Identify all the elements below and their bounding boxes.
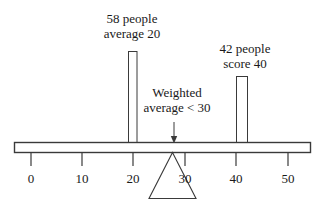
axis-tick-label-40: 40 — [219, 172, 253, 185]
axis-ticks — [31, 152, 288, 166]
fulcrum-annotation-line1: Weighted — [122, 85, 232, 100]
fulcrum-annotation-line2: average < 30 — [122, 100, 232, 115]
axis-tick-label-0: 0 — [14, 172, 48, 185]
down-arrow-icon — [171, 122, 177, 144]
right-bar-annotation-line1: 42 people — [197, 41, 293, 56]
axis-tick-label-10: 10 — [65, 172, 99, 185]
axis-tick-label-20: 20 — [116, 172, 150, 185]
beam-bar — [15, 143, 311, 153]
right-bar-annotation: 42 people score 40 — [197, 41, 293, 71]
left-bar-annotation-line2: average 20 — [84, 26, 180, 41]
bar-right-42-people — [237, 77, 248, 143]
axis-tick-label-50: 50 — [271, 172, 305, 185]
axis-tick-label-30: 30 — [168, 172, 202, 185]
diagram-canvas: 58 people average 20 42 people score 40 … — [0, 0, 325, 204]
fulcrum-annotation: Weighted average < 30 — [122, 85, 232, 115]
left-bar-annotation-line1: 58 people — [84, 11, 180, 26]
left-bar-annotation: 58 people average 20 — [84, 11, 180, 41]
right-bar-annotation-line2: score 40 — [197, 56, 293, 71]
